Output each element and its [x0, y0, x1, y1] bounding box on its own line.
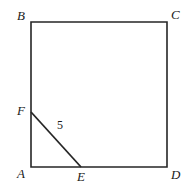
vertex-label-e: E: [77, 170, 85, 183]
vertex-label-f: F: [17, 104, 25, 117]
geometry-figure: B C A D F E 5: [0, 0, 194, 191]
vertex-label-d: D: [171, 168, 180, 181]
geometry-canvas: [0, 0, 194, 191]
square-abcd-outline: [31, 22, 167, 167]
segment-fe-line: [31, 112, 81, 167]
vertex-label-b: B: [17, 9, 25, 22]
vertex-label-c: C: [171, 8, 180, 21]
segment-length-label: 5: [57, 119, 63, 131]
vertex-label-a: A: [17, 167, 25, 180]
